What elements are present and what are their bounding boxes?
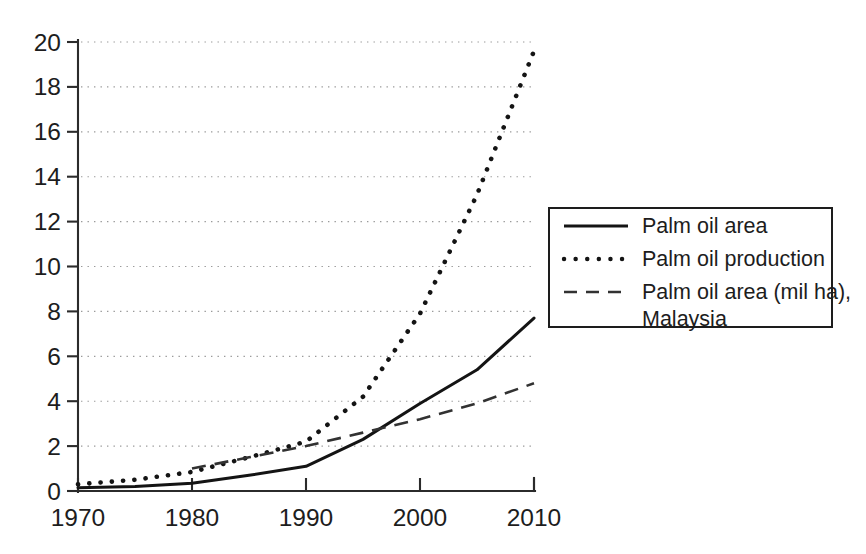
y-tick-label-4: 4 bbox=[47, 388, 61, 415]
chart-figure: 02468101214161820 19701980199020002010 P… bbox=[0, 0, 866, 554]
y-tick-label-20: 20 bbox=[34, 29, 61, 56]
data-series bbox=[78, 51, 534, 488]
y-tick-label-16: 16 bbox=[34, 118, 61, 145]
legend-label-1: Palm oil production bbox=[642, 247, 825, 271]
y-tick-label-0: 0 bbox=[47, 478, 61, 505]
y-tick-label-6: 6 bbox=[47, 343, 61, 370]
y-axis-tick-labels: 02468101214161820 bbox=[34, 29, 61, 505]
y-tick-label-2: 2 bbox=[47, 433, 61, 460]
x-tick-label-1980: 1980 bbox=[165, 504, 220, 531]
y-tick-label-10: 10 bbox=[34, 253, 61, 280]
legend-label-2: Palm oil area (mil ha), bbox=[642, 280, 851, 304]
x-axis-tick-labels: 19701980199020002010 bbox=[51, 504, 562, 531]
legend-label-0: Palm oil area bbox=[642, 214, 768, 238]
axis-tick-marks bbox=[67, 42, 534, 491]
series-line-1 bbox=[78, 51, 534, 484]
legend-label-2-line2: Malaysia bbox=[642, 307, 727, 331]
line-chart: 02468101214161820 19701980199020002010 P… bbox=[0, 0, 866, 554]
x-tick-label-1970: 1970 bbox=[51, 504, 106, 531]
gridlines bbox=[81, 42, 536, 446]
series-line-0 bbox=[78, 318, 534, 488]
y-tick-label-18: 18 bbox=[34, 73, 61, 100]
legend: Palm oil areaPalm oil productionPalm oil… bbox=[549, 208, 851, 331]
x-tick-label-2010: 2010 bbox=[507, 504, 562, 531]
y-tick-label-8: 8 bbox=[47, 298, 61, 325]
x-tick-label-1990: 1990 bbox=[279, 504, 334, 531]
y-tick-label-14: 14 bbox=[34, 163, 61, 190]
x-tick-label-2000: 2000 bbox=[393, 504, 448, 531]
y-tick-label-12: 12 bbox=[34, 208, 61, 235]
